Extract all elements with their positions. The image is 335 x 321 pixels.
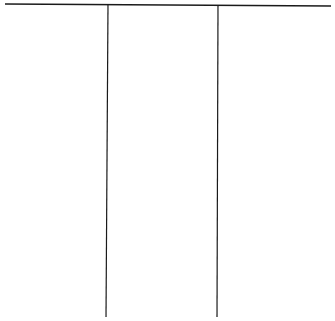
right-vertical-divider <box>217 5 218 317</box>
left-vertical-divider <box>106 4 108 317</box>
chart-lines <box>0 0 335 321</box>
three-column-chart <box>0 0 335 321</box>
top-horizontal-line <box>5 4 331 6</box>
